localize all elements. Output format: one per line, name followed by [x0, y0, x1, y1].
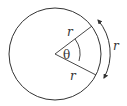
radius-upper-label: r — [67, 25, 74, 39]
arc-length-arrow — [98, 20, 110, 78]
angle-arc — [75, 39, 80, 61]
angle-label: θ — [63, 48, 70, 62]
radius-upper — [55, 26, 92, 54]
radius-lower-label: r — [70, 69, 77, 83]
radian-diagram: r r r θ — [0, 0, 127, 106]
arc-label: r — [113, 39, 120, 53]
